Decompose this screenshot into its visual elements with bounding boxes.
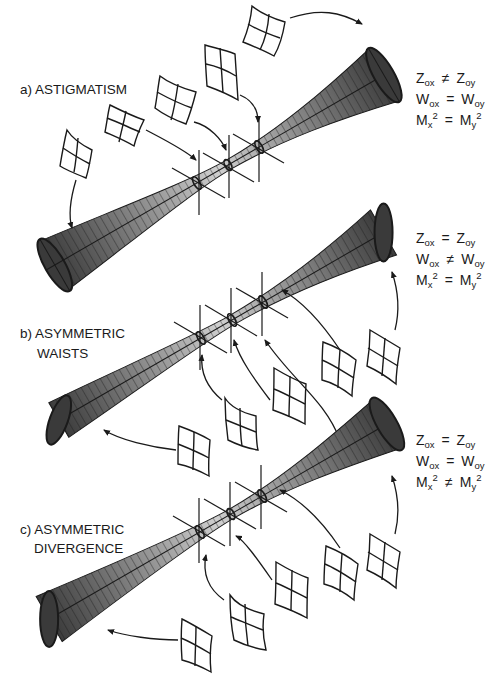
panel-label: a) ASTIGMATISM bbox=[20, 82, 127, 97]
panel-label: WAISTS bbox=[37, 346, 88, 361]
panel-c-grids bbox=[181, 534, 400, 672]
equation-z: Zox=Zoy bbox=[416, 430, 485, 451]
panel-c-label: c) ASYMMETRIC DIVERGENCE bbox=[20, 522, 125, 556]
grid-icon bbox=[178, 426, 210, 476]
panel-a-equations: Zox≠Zoy Wox=Woy Mx2=My2 bbox=[416, 68, 485, 131]
equation-w: Wox≠Woy bbox=[416, 249, 485, 270]
grid-icon bbox=[367, 330, 400, 384]
equation-z: Zox≠Zoy bbox=[416, 68, 485, 89]
equation-m2: Mx2≠My2 bbox=[416, 472, 485, 493]
grid-icon bbox=[230, 595, 266, 650]
equation-w: Wox=Woy bbox=[416, 451, 485, 472]
equation-z: Zox=Zoy bbox=[416, 228, 485, 249]
equation-m2: Mx2=My2 bbox=[416, 270, 485, 291]
grid-icon bbox=[275, 562, 308, 618]
grid-icon bbox=[273, 368, 306, 424]
panel-label: b) ASYMMETRIC bbox=[20, 326, 125, 341]
grid-icon bbox=[243, 6, 285, 56]
grid-icon bbox=[105, 105, 144, 146]
grid-icon bbox=[181, 619, 212, 672]
panel-b-equations: Zox=Zoy Wox≠Woy Mx2=My2 bbox=[416, 228, 485, 291]
grid-icon bbox=[324, 546, 358, 600]
equation-w: Wox=Woy bbox=[416, 89, 485, 110]
grid-icon bbox=[322, 342, 356, 396]
panel-label: c) ASYMMETRIC bbox=[20, 522, 125, 537]
grid-icon bbox=[155, 76, 196, 124]
panel-b-label: b) ASYMMETRIC WAISTS bbox=[20, 326, 125, 361]
panel-c-equations: Zox=Zoy Wox=Woy Mx2≠My2 bbox=[416, 430, 485, 493]
equation-m2: Mx2=My2 bbox=[416, 110, 485, 131]
grid-icon bbox=[225, 398, 258, 450]
grid-icon bbox=[205, 45, 238, 100]
grid-icon bbox=[60, 130, 92, 178]
grid-icon bbox=[367, 534, 400, 588]
panel-a-label: a) ASTIGMATISM bbox=[20, 82, 127, 97]
panel-label: DIVERGENCE bbox=[34, 541, 123, 556]
